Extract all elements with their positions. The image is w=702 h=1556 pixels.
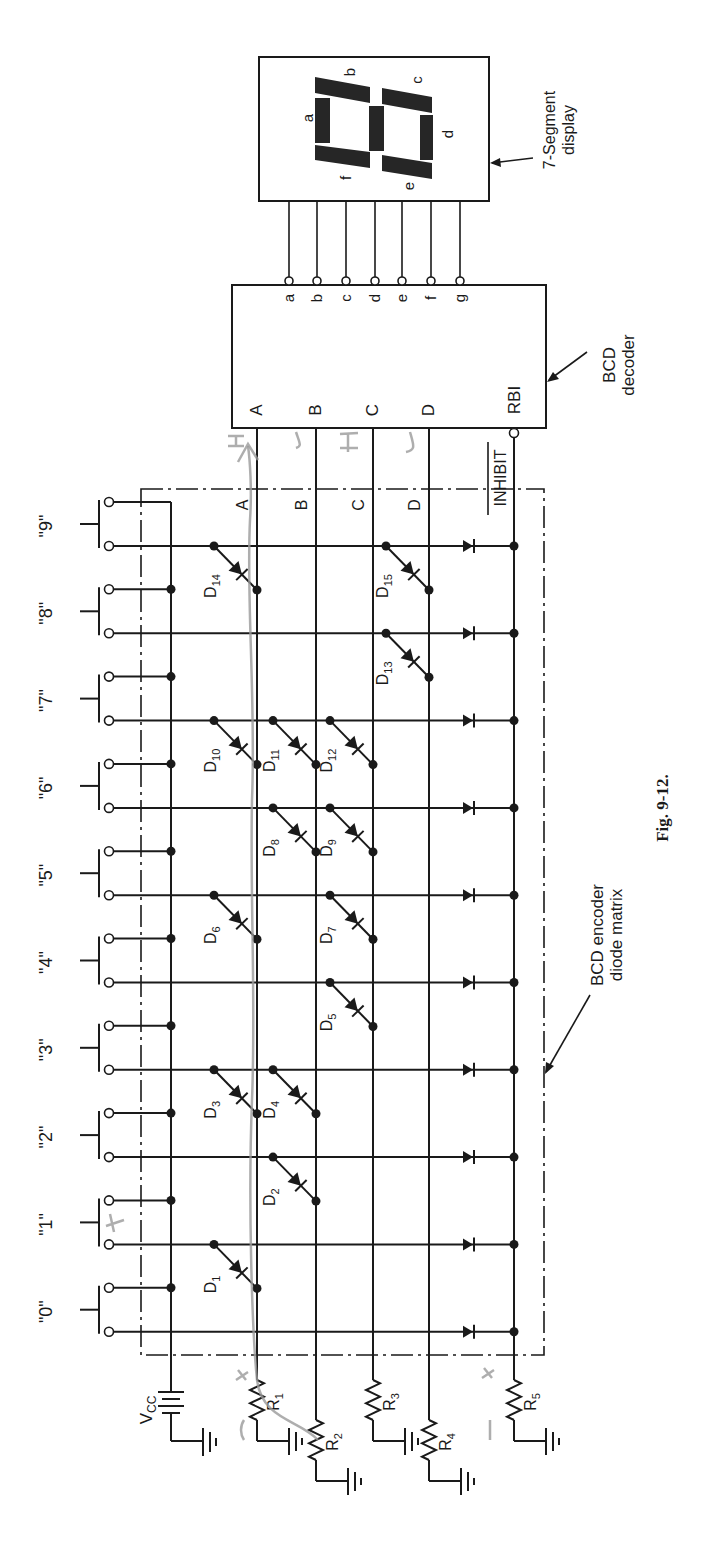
resistor-label-r4: R4	[437, 1433, 457, 1451]
diode-label-d4: D4	[261, 1101, 281, 1119]
diode-d8: D8	[261, 803, 321, 856]
resistor-r2: R2	[309, 1420, 361, 1495]
diode-label-d3: D3	[202, 1101, 222, 1119]
display-label-line1: 7-Segment	[541, 90, 558, 169]
diode-d15: D15	[374, 542, 434, 598]
switch-9: "9"	[36, 498, 519, 554]
inhibit-diode-icon	[463, 715, 473, 727]
inhibit-diode-icon	[463, 1151, 473, 1163]
segment-label-b: b	[341, 68, 358, 76]
bcd-decoder: a b c d e f g A B C D RBI BCD decoder	[232, 277, 638, 438]
resistor-label-r2: R2	[324, 1433, 344, 1451]
display-label-line2: display	[560, 105, 577, 155]
decoder-input-a: A	[247, 404, 266, 416]
resistor-group: R1R2R3R4R5	[250, 1380, 559, 1495]
decoder-output-b: b	[308, 294, 325, 302]
switch-label-3: "3"	[36, 1038, 56, 1061]
diode-group: D1D2D3D4D5D6D7D8D9D10D11D12D13D14D15	[202, 542, 434, 1294]
matrix-pointer-arrow	[546, 995, 590, 1072]
diode-label-d2: D2	[261, 1188, 281, 1206]
resistor-r3: R3	[366, 1380, 418, 1455]
bus-label-c: C	[350, 499, 367, 511]
ground-icon	[203, 1428, 216, 1456]
pencil-mark-plus-inhibit	[482, 1368, 494, 1378]
resistor-r1: R1	[250, 1380, 302, 1455]
diode-label-d1: D1	[202, 1276, 222, 1294]
inhibit-diode-icon	[463, 889, 473, 901]
matrix-boundary	[141, 489, 544, 1355]
diode-d12: D12	[318, 716, 378, 772]
inhibit-diode-icon	[463, 1064, 473, 1076]
switch-4: "4"	[36, 934, 519, 990]
bcd-encoder-circuit-diagram: a b c d e f 7-Segment display a b c d e	[0, 0, 702, 1556]
decoder-label-line2: decoder	[619, 334, 638, 396]
ground-icon	[405, 1428, 418, 1455]
switch-0: "0"	[36, 1283, 519, 1339]
diode-label-d6: D6	[202, 926, 222, 944]
segment-label-e: e	[400, 182, 417, 190]
diode-d9: D9	[318, 803, 378, 856]
inhibit-diode-icon	[463, 1326, 473, 1338]
decoder-output-g: g	[451, 294, 468, 302]
power-and-resistors: VCC R1R2R3R4R5	[137, 1380, 559, 1495]
vcc-label: VCC	[137, 1395, 159, 1424]
resistor-r4: R4	[422, 1420, 474, 1495]
inhibit-label: INHIBIT	[492, 449, 509, 506]
decoder-label-line1: BCD	[600, 347, 619, 383]
ground-icon	[461, 1468, 474, 1495]
resistor-label-r1: R1	[265, 1393, 285, 1411]
diode-d4: D4	[261, 1065, 321, 1118]
vcc-battery-icon	[158, 1392, 203, 1441]
resistor-label-r3: R3	[381, 1393, 401, 1411]
switch-label-7: "7"	[36, 689, 56, 712]
diode-d11: D11	[261, 716, 321, 772]
segment-label-f: f	[337, 175, 354, 180]
seven-segment-display: a b c d e f 7-Segment display	[259, 57, 577, 201]
switch-label-6: "6"	[36, 777, 56, 800]
switch-label-0: "0"	[36, 1300, 56, 1323]
ground-icon	[289, 1428, 302, 1455]
diode-label-d9: D9	[318, 839, 338, 857]
decoder-rbi-label: RBI	[505, 386, 524, 414]
pencil-mark-minus-a	[241, 1420, 244, 1440]
resistor-label-r5: R5	[522, 1393, 542, 1411]
segment-label-a: a	[299, 113, 316, 122]
figure-caption: Fig. 9-12.	[653, 774, 672, 842]
segment-label-d: d	[439, 130, 456, 138]
diode-label-d12: D12	[318, 749, 338, 773]
pencil-mark-l-d	[406, 432, 413, 452]
inhibit-diode-icon	[463, 1238, 473, 1250]
diode-label-d14: D14	[202, 574, 222, 598]
inhibit-diode-icon	[463, 540, 473, 552]
decoder-box	[232, 285, 546, 428]
segment-label-c: c	[408, 76, 425, 84]
resistor-icon	[366, 1380, 380, 1420]
decoder-input-b: B	[306, 404, 325, 415]
segment-c	[382, 88, 432, 113]
pencil-mark-l-b	[296, 432, 300, 448]
diode-d5: D5	[318, 978, 378, 1031]
switch-label-9: "9"	[36, 515, 56, 538]
switch-8: "8"	[36, 585, 519, 641]
decoder-output-e: e	[393, 294, 410, 302]
switch-label-5: "5"	[36, 864, 56, 887]
pencil-mark-switch-1	[106, 1214, 124, 1232]
decoder-output-a: a	[280, 293, 297, 302]
diode-label-d7: D7	[318, 926, 338, 944]
diode-d7: D7	[318, 891, 378, 944]
segment-d	[420, 115, 433, 160]
resistor-icon	[422, 1420, 436, 1460]
pencil-mark-plus-a	[236, 1370, 248, 1380]
diode-d2: D2	[261, 1153, 321, 1206]
diode-d13: D13	[374, 629, 434, 685]
decoder-output-f: f	[422, 295, 439, 300]
switch-label-4: "4"	[36, 951, 56, 974]
switch-label-1: "1"	[36, 1213, 56, 1236]
pencil-mark-h-a	[228, 436, 244, 446]
decoder-input-c: C	[363, 404, 382, 416]
segment-a	[315, 98, 330, 143]
diode-label-d5: D5	[318, 1014, 338, 1032]
diode-label-d15: D15	[374, 574, 394, 598]
decoder-input-d: D	[419, 404, 438, 416]
diode-d14: D14	[202, 542, 262, 598]
